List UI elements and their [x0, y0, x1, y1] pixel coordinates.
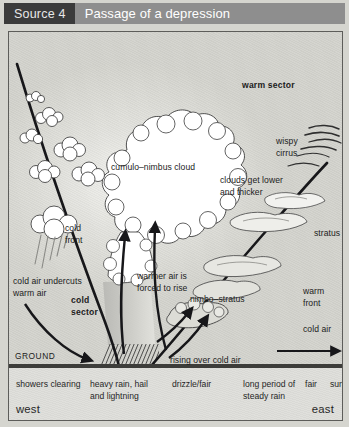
source-number-tab: Source 4 — [4, 3, 75, 24]
source-number-label: Source 4 — [14, 7, 66, 21]
cloud-small — [30, 161, 61, 183]
label-warmer-air-rises: warmer air is forced to rise — [137, 271, 187, 294]
cloud-layer — [204, 256, 281, 277]
label-warm-front: warm front — [303, 286, 324, 309]
cloud-small — [54, 137, 86, 161]
art-inner — [9, 64, 342, 366]
source-header-bar: Source 4 Passage of a depression — [4, 3, 345, 24]
figure-title: Passage of a depression — [75, 3, 230, 24]
figure-page: Source 4 Passage of a depression showers… — [0, 0, 349, 427]
label-warm-sector: warm sector — [242, 80, 295, 92]
cloud-layer — [230, 212, 307, 231]
cloud-small — [72, 162, 105, 186]
label-ground: GROUND — [15, 351, 55, 363]
depression-diagram: showers clearing heavy rain, hail and li… — [8, 31, 343, 421]
label-cold-sector: cold sector — [71, 295, 98, 318]
label-cumulonimbus: cumulo–nimbus cloud — [111, 162, 195, 174]
cloud-small — [36, 108, 64, 127]
label-cold-front: cold front — [65, 223, 82, 246]
figure-title-label: Passage of a depression — [85, 6, 230, 21]
label-stratus: stratus — [314, 228, 340, 240]
label-rising-over-cold-air: rising over cold air — [170, 355, 241, 367]
label-cold-air: cold air — [303, 324, 331, 336]
label-wispy-cirrus: wispy cirrus — [276, 136, 298, 159]
cloud-small — [26, 92, 45, 103]
label-nimbostratus: nimbo–stratus — [190, 294, 245, 306]
label-clouds-get-lower: clouds get lower and thicker — [220, 175, 283, 198]
